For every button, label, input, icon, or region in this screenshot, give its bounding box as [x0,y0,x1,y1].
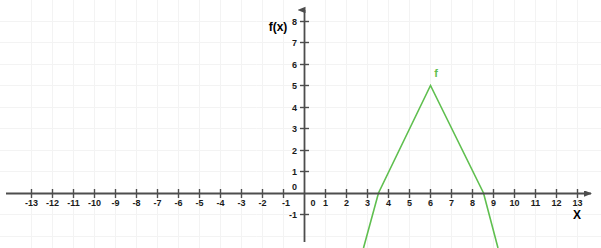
function-plot: -13 -12 -11 -10 -9 -8 -7 -6 -5 -4 -3 -2 … [0,0,601,248]
y-tick-label: 7 [292,38,297,48]
y-axis-title: f(x) [269,20,288,34]
y-tick-label-zero: 0 [292,182,297,192]
x-tick-label: 9 [491,198,496,208]
x-tick-label: 11 [531,198,541,208]
chart-canvas: -13 -12 -11 -10 -9 -8 -7 -6 -5 -4 -3 -2 … [0,0,601,248]
x-tick-label: 10 [509,198,519,208]
x-tick-label: -10 [88,198,101,208]
x-tick-label: -7 [153,198,161,208]
y-tick-label: 8 [292,17,297,27]
x-tick-label: 13 [572,198,582,208]
x-tick-label: -8 [132,198,140,208]
x-tick-label: -4 [216,198,224,208]
y-tick-label: 6 [292,60,297,70]
x-axis-title: X [573,208,581,222]
x-tick-label: -1 [282,198,290,208]
x-tick-label: 5 [407,198,412,208]
x-tick-label: 3 [365,198,370,208]
x-tick-label: 8 [470,198,475,208]
y-tick-label: 4 [292,103,297,113]
x-tick-label: 6 [428,198,433,208]
y-tick-label: 1 [292,167,297,177]
x-tick-label: -12 [46,198,59,208]
x-tick-label: 7 [449,198,454,208]
x-tick-label: -3 [237,198,245,208]
x-tick-label: 4 [386,198,391,208]
y-tick-label: 3 [292,124,297,134]
curve-label-f: f [434,67,438,79]
plot-background [0,0,601,248]
x-tick-label: 1 [323,198,328,208]
x-tick-label: -6 [174,198,182,208]
x-tick-label: 2 [344,198,349,208]
x-tick-label: 0 [310,198,315,208]
x-tick-label: -2 [258,198,266,208]
x-tick-label: -5 [195,198,203,208]
x-tick-label: 12 [551,198,561,208]
y-tick-label: 5 [292,81,297,91]
y-tick-label: -1 [289,210,297,220]
x-tick-label: -9 [111,198,119,208]
x-tick-label: -11 [67,198,80,208]
y-tick-label: 2 [292,146,297,156]
x-tick-label: -13 [25,198,38,208]
